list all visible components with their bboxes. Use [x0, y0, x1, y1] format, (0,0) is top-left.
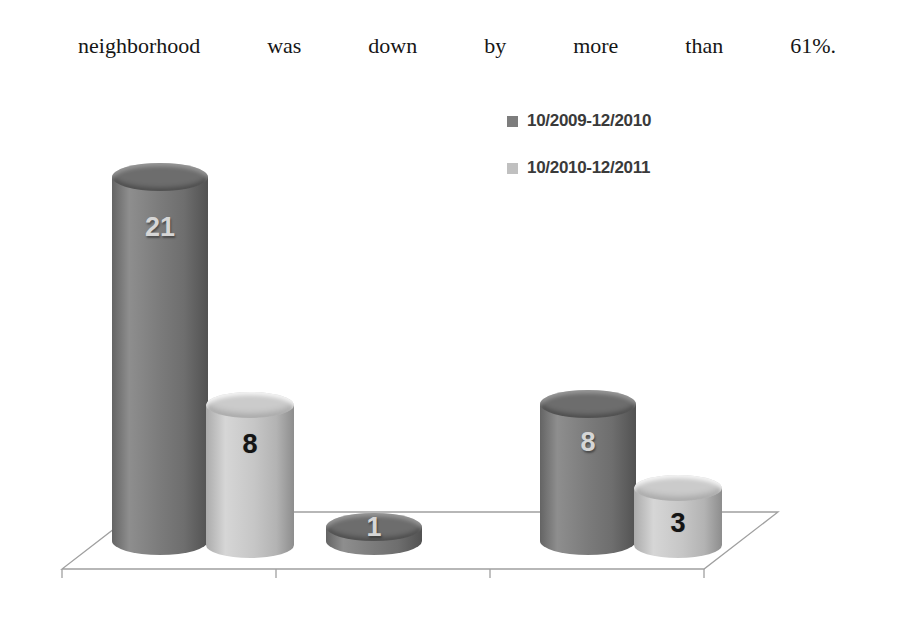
cylinder-bar-agg-assault-s1: 21 — [112, 163, 208, 556]
bar-value-label: 21 — [112, 214, 208, 241]
cylinder-bar-agg-assault-s2: 8 — [206, 392, 294, 558]
legend-swatch — [507, 116, 518, 127]
legend-item-2009-2010: 10/2009-12/2010 — [507, 111, 651, 131]
document-page: neighborhood was down by more than 61%. … — [0, 0, 916, 633]
legend-item-2010-2011: 10/2010-12/2011 — [507, 158, 651, 178]
chart-bars: 211883 — [0, 0, 916, 633]
cylinder-bar-robbery-s1: 8 — [540, 390, 636, 555]
bar-value-label: 8 — [206, 431, 294, 458]
cylinder-top — [634, 475, 722, 501]
cylinder-top — [206, 392, 294, 418]
legend-label: 10/2010-12/2011 — [527, 158, 650, 178]
chart-legend: 10/2009-12/2010 10/2010-12/2011 — [507, 111, 651, 178]
cylinder-top — [540, 390, 636, 418]
cylinder-bar-homicide-s1: 1 — [326, 513, 422, 556]
legend-label: 10/2009-12/2010 — [527, 111, 651, 131]
bar-value-label: 8 — [540, 429, 636, 456]
cylinder-bar-robbery-s2: 3 — [634, 475, 722, 558]
crime-bar-chart: 211883 Agg. Assault Homicide Robbery 10/… — [0, 90, 916, 633]
legend-swatch — [507, 163, 518, 174]
cylinder-body — [206, 405, 294, 558]
bar-value-label: 3 — [634, 510, 722, 537]
bar-value-label: 1 — [326, 514, 422, 541]
cylinder-top — [112, 163, 208, 191]
